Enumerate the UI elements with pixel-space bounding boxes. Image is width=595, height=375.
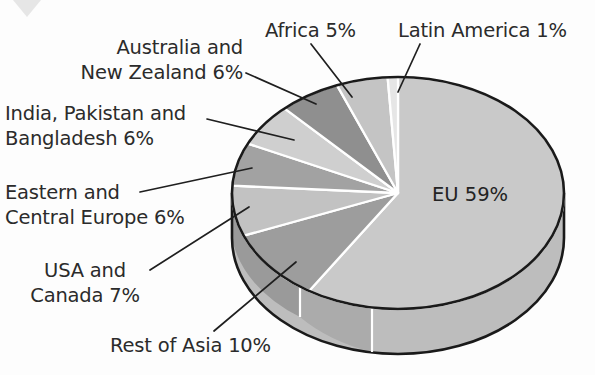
- pie-label-usa-canada-line2: Canada 7%: [30, 283, 140, 308]
- pie-label-usa-canada-line1: USA and: [30, 258, 140, 283]
- pie-label-india-pakistan-bangladesh-line2: Bangladesh 6%: [5, 126, 154, 151]
- pie-label-eastern-central-europe-line2: Central Europe 6%: [5, 205, 185, 230]
- pie-label-australia-new-zealand-line1: Australia and: [0, 35, 243, 60]
- leader-line-australia-nz: [246, 73, 316, 104]
- pie-label-india-pakistan-bangladesh-line1: India, Pakistan and: [5, 101, 186, 126]
- pie-label-eastern-central-europe-line1: Eastern and: [5, 180, 120, 205]
- pie-chart-figure: EU 59% Africa 5% Latin America 1% Austra…: [0, 0, 595, 375]
- pie-label-africa: Africa 5%: [265, 18, 356, 43]
- pie-label-australia-new-zealand-line2: New Zealand 6%: [0, 60, 243, 85]
- pie-label-latin-america: Latin America 1%: [398, 18, 567, 43]
- pie-label-eu: EU 59%: [432, 183, 508, 206]
- pie-label-rest-of-asia: Rest of Asia 10%: [110, 333, 271, 358]
